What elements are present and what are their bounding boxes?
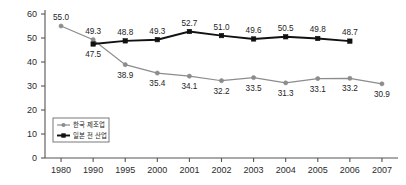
legend-item-label: 한국 제조업 <box>73 121 105 129</box>
x-axis-tick-label: 2002 <box>211 165 231 175</box>
legend-swatch-marker <box>61 123 65 127</box>
line-chart-figure: 0102030405060 19801990199520002001200220… <box>0 0 406 185</box>
legend-swatch-marker <box>61 133 65 137</box>
y-axis-tick-label: 20 <box>27 105 37 115</box>
data-point-label: 38.9 <box>117 71 133 80</box>
data-point-marker <box>91 38 95 42</box>
data-point-label: 50.5 <box>278 24 294 33</box>
data-point-marker <box>155 37 159 41</box>
data-point-marker <box>348 76 352 80</box>
data-point-label: 32.2 <box>214 87 230 96</box>
data-point-marker <box>283 35 287 39</box>
data-point-marker <box>348 39 352 43</box>
x-axis-tick-label: 2004 <box>276 165 296 175</box>
data-point-marker <box>316 36 320 40</box>
data-point-label: 30.9 <box>374 90 390 99</box>
data-point-label: 52.7 <box>181 19 197 28</box>
data-point-marker <box>123 63 127 67</box>
data-point-marker <box>219 79 223 83</box>
data-point-marker <box>284 81 288 85</box>
data-point-label: 33.5 <box>246 84 262 93</box>
data-point-label: 51.0 <box>214 23 230 32</box>
x-axis-tick-label: 2005 <box>308 165 328 175</box>
y-axis-tick-label: 10 <box>27 129 37 139</box>
data-point-marker <box>380 82 384 86</box>
data-point-label: 34.1 <box>181 82 197 91</box>
data-point-label: 31.3 <box>278 89 294 98</box>
data-point-label: 35.4 <box>149 79 165 88</box>
data-point-label: 33.1 <box>310 85 326 94</box>
data-point-label: 49.6 <box>246 26 262 35</box>
legend-item-label: 일본 전 산업 <box>73 131 107 139</box>
data-point-label: 55.0 <box>53 13 69 22</box>
chart-canvas: 0102030405060 19801990199520002001200220… <box>0 0 406 185</box>
data-point-label: 49.3 <box>85 27 101 36</box>
x-axis-tick-label: 1980 <box>51 165 71 175</box>
data-point-label: 48.7 <box>342 28 358 37</box>
y-axis-tick-label: 40 <box>27 57 37 67</box>
legend[interactable]: 한국 제조업일본 전 산업 <box>53 118 109 142</box>
x-axis-tick-label: 2006 <box>340 165 360 175</box>
data-point-marker <box>155 71 159 75</box>
x-axis-tick-label: 2007 <box>372 165 392 175</box>
data-point-label: 49.3 <box>149 27 165 36</box>
data-point-marker <box>187 29 191 33</box>
y-axis-tick-label: 50 <box>27 33 37 43</box>
data-point-label: 33.2 <box>342 84 358 93</box>
y-axis-tick-label: 60 <box>27 9 37 19</box>
data-point-marker <box>91 42 95 46</box>
data-point-marker <box>316 76 320 80</box>
data-point-label: 47.5 <box>85 50 101 59</box>
data-point-label: 48.8 <box>117 28 133 37</box>
data-point-marker <box>187 74 191 78</box>
x-axis-tick-label: 1995 <box>115 165 135 175</box>
x-axis-tick-label: 2003 <box>244 165 264 175</box>
data-point-marker <box>219 33 223 37</box>
y-axis-tick-label: 0 <box>32 153 37 163</box>
x-axis-tick-label: 1990 <box>83 165 103 175</box>
y-axis-tick-label: 30 <box>27 81 37 91</box>
data-point-marker <box>251 37 255 41</box>
data-point-marker <box>251 76 255 80</box>
data-point-marker <box>59 24 63 28</box>
data-point-marker <box>123 39 127 43</box>
x-axis-tick-label: 2001 <box>179 165 199 175</box>
data-point-label: 49.8 <box>310 25 326 34</box>
x-axis-tick-label: 2000 <box>147 165 167 175</box>
